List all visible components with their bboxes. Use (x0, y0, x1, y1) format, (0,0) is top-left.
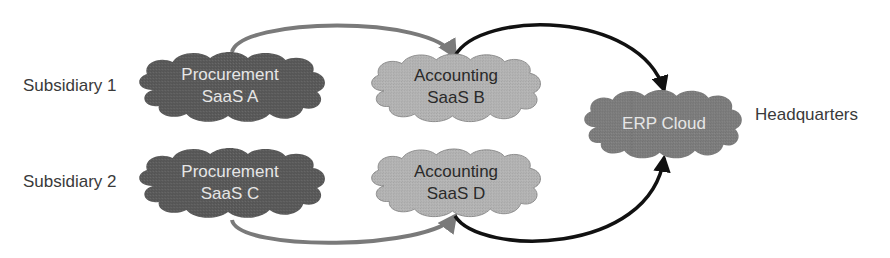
node-title: ERP Cloud (622, 113, 706, 135)
label-subsidiary-1: Subsidiary 1 (23, 77, 117, 94)
node-procurement-saas-a: Procurement SaaS A (181, 64, 278, 108)
node-procurement-saas-c: Procurement SaaS C (181, 161, 278, 205)
node-title: Accounting (414, 65, 498, 87)
node-accounting-saas-b: Accounting SaaS B (414, 65, 498, 109)
node-title: Procurement (181, 64, 278, 86)
arrow-procurement-c-to-accounting-d (232, 216, 455, 243)
arrow-procurement-a-to-accounting-b (232, 26, 455, 57)
label-headquarters: Headquarters (755, 106, 858, 123)
node-subtitle: SaaS A (181, 86, 278, 108)
node-accounting-saas-d: Accounting SaaS D (414, 161, 498, 205)
node-subtitle: SaaS B (414, 87, 498, 109)
node-erp-cloud: ERP Cloud (622, 113, 706, 135)
node-subtitle: SaaS D (414, 183, 498, 205)
label-subsidiary-2: Subsidiary 2 (23, 173, 117, 190)
node-title: Procurement (181, 161, 278, 183)
diagram-canvas (0, 0, 890, 258)
node-subtitle: SaaS C (181, 183, 278, 205)
node-title: Accounting (414, 161, 498, 183)
